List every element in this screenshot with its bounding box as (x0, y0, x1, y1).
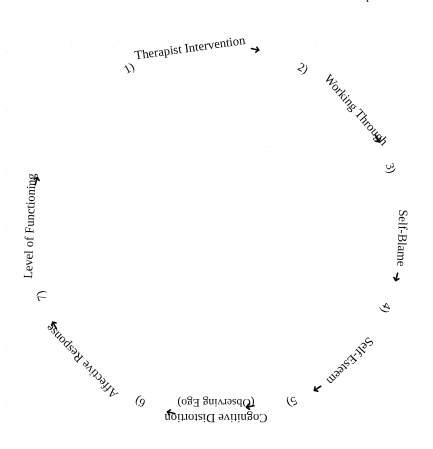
cycle-node-1-text: 1) (121, 60, 135, 75)
cycle-label-affective-response-text: Affective Response (44, 322, 121, 401)
cycle-node-4-text: 4) (378, 301, 393, 315)
cycle-arrow-2-text: ➜ (248, 43, 261, 58)
cycle-node-7-text: 7) (34, 289, 49, 303)
cycle-arrow-observing-ego-text: ➜ (243, 398, 256, 413)
cycle-node-2-text: 2) (296, 60, 310, 75)
cycle-node-5-text: 5) (285, 394, 299, 409)
cycle-arrow-4-text: ➜ (389, 270, 404, 284)
diagram-page: The Therapeutic Process 1)Therapist Inte… (0, 0, 433, 449)
cycle-label-therapist-intervention-text: Therapist Intervention (134, 34, 246, 62)
cycle-arrow-5-text: ➜ (309, 380, 325, 397)
cycle-label-cognitive-distortion-text: Cognitive Distortion (164, 412, 267, 425)
cycle-label-level-of-functioning-text: Level of Functioning (22, 173, 38, 279)
cycle-node-6-text: 6) (133, 394, 147, 409)
cycle-node-3-text: 3) (383, 162, 398, 176)
cycle-label-self-blame-text: Self-Blame (395, 210, 409, 267)
cycle-label-self-esteem-text: Self-Esteem (324, 335, 375, 388)
therapeutic-process-cycle-diagram: 1)Therapist Intervention2)Working Throug… (0, 0, 433, 449)
